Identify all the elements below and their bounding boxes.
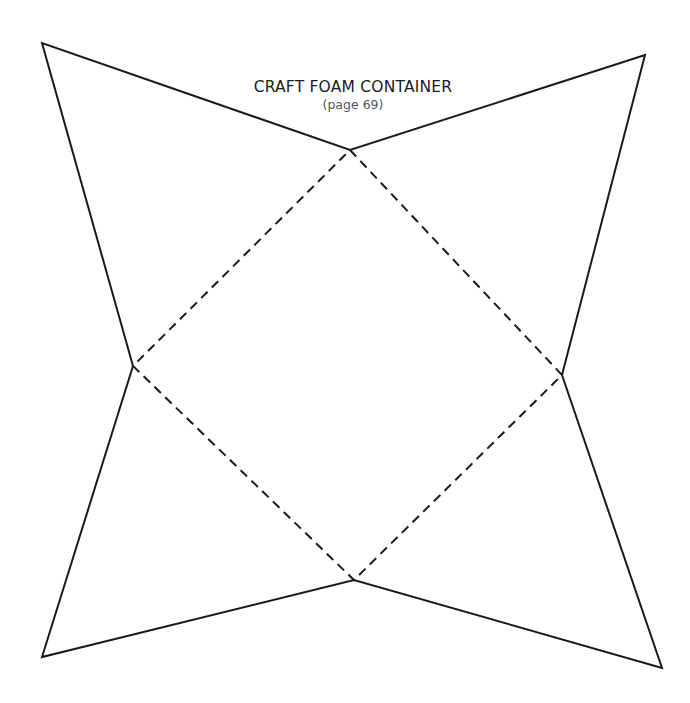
template-canvas: CRAFT FOAM CONTAINER (page 69) (0, 0, 690, 703)
fold-line-square (133, 150, 562, 580)
cut-line-bottom-flap (42, 366, 662, 668)
diagram-subtitle: (page 69) (0, 97, 690, 112)
diagram-title: CRAFT FOAM CONTAINER (0, 78, 690, 96)
